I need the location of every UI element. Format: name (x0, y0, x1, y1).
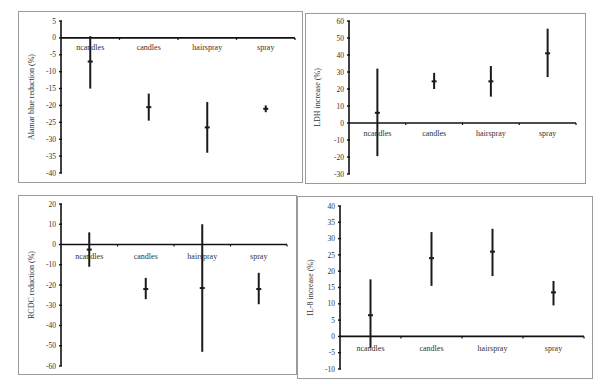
y-tick-label: -20 (334, 153, 344, 162)
chart-3: 20100-10-20-30-40-50-60RCDC reduction (%… (27, 200, 287, 371)
y-tick-label: 30 (337, 68, 345, 77)
y-tick-label: -40 (46, 321, 56, 330)
category-label-candles: candles (134, 252, 158, 261)
y-tick-label: 5 (52, 17, 56, 26)
y-tick-label: -35 (46, 152, 56, 161)
charts-canvas: 50-5-10-15-20-25-30-35-40Alamar blue red… (0, 0, 606, 389)
y-tick-label: -20 (46, 101, 56, 110)
y-tick-label: -20 (46, 281, 56, 290)
y-tick-label: -40 (46, 169, 56, 178)
y-tick-label: -5 (50, 50, 56, 59)
chart-2: 6050403020100-10-20-30LDH increase (%)nc… (313, 17, 576, 179)
y-tick-label: 40 (328, 202, 336, 211)
y-tick-label: -10 (325, 365, 335, 374)
category-label-spray: spray (257, 43, 274, 52)
y-tick-label: -5 (329, 348, 335, 357)
y-tick-label: 10 (328, 299, 336, 308)
y-tick-label: 10 (337, 102, 345, 111)
y-tick-label: 0 (52, 240, 56, 249)
category-label-spray: spray (539, 129, 556, 138)
y-tick-label: 5 (331, 316, 335, 325)
y-tick-label: 20 (49, 200, 57, 209)
y-axis-label: RCDC reduction (%) (27, 251, 36, 319)
y-tick-label: -15 (46, 84, 56, 93)
category-label-spray: spray (545, 344, 562, 353)
y-tick-label: -50 (46, 341, 56, 350)
y-tick-label: -10 (46, 67, 56, 76)
y-tick-label: 20 (337, 85, 345, 94)
category-label-candles: candles (420, 344, 444, 353)
category-label-hairspray: hairspray (192, 43, 222, 52)
category-label-candles: candles (137, 43, 161, 52)
y-tick-label: 25 (328, 251, 336, 260)
chart-4: 4035302520151050-5-10IL-8 increase (%)nc… (306, 202, 584, 374)
category-label-spray: spray (250, 252, 267, 261)
y-tick-label: -60 (46, 362, 56, 371)
y-tick-label: 60 (337, 17, 345, 26)
y-axis-label: Alamar blue reduction (%) (27, 54, 36, 140)
y-tick-label: -25 (46, 118, 56, 127)
y-tick-label: -10 (46, 260, 56, 269)
y-tick-label: 30 (328, 234, 336, 243)
y-tick-label: 40 (337, 51, 345, 60)
y-tick-label: 0 (52, 33, 56, 42)
y-tick-label: -30 (46, 135, 56, 144)
category-label-hairspray: hairspray (476, 129, 506, 138)
chart-1: 50-5-10-15-20-25-30-35-40Alamar blue red… (27, 17, 295, 178)
y-axis-label: IL-8 increase (%) (306, 259, 315, 316)
y-tick-label: 0 (340, 119, 344, 128)
y-tick-label: 20 (328, 267, 336, 276)
y-tick-label: 50 (337, 34, 345, 43)
y-axis-label: LDH increase (%) (313, 68, 322, 127)
y-tick-label: -10 (334, 136, 344, 145)
y-tick-label: 0 (331, 332, 335, 341)
y-tick-label: -30 (46, 301, 56, 310)
y-tick-label: 35 (328, 218, 336, 227)
y-tick-label: -30 (334, 170, 344, 179)
y-tick-label: 15 (328, 283, 336, 292)
category-label-hairspray: hairspray (478, 344, 508, 353)
y-tick-label: 10 (49, 220, 57, 229)
category-label-candles: candles (422, 129, 446, 138)
